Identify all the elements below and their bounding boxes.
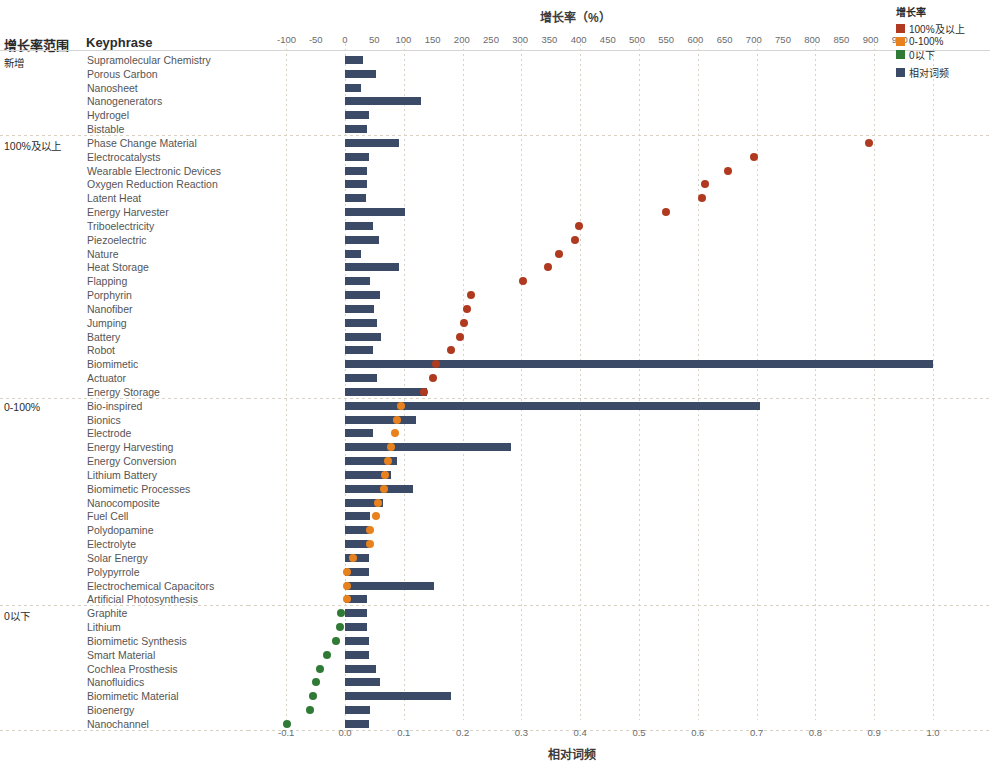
keyphrase-label: Lithium Battery — [87, 470, 157, 481]
growth-rate-dot — [555, 250, 563, 258]
keyphrase-label: Biomimetic Material — [87, 691, 179, 702]
keyphrase-label: Bionics — [87, 415, 121, 426]
bar — [345, 485, 413, 493]
keyphrase-label: Nature — [87, 249, 119, 260]
bottom-tick-label: 0.0 — [327, 727, 363, 738]
keyphrase-label: Graphite — [87, 608, 127, 619]
top-axis-title: 增长率（%） — [540, 8, 611, 25]
growth-rate-dot — [312, 678, 320, 686]
bar — [345, 346, 373, 354]
growth-rate-dot — [420, 388, 428, 396]
growth-rate-dot — [463, 305, 471, 313]
group-divider-label-column — [0, 135, 248, 136]
bar — [345, 167, 367, 175]
keyphrase-label: Energy Harvester — [87, 207, 169, 218]
bar — [345, 236, 379, 244]
growth-rate-dot — [724, 167, 732, 175]
bar — [345, 609, 367, 617]
keyphrase-label: Electrocatalysts — [87, 152, 161, 163]
keyphrase-label: Phase Change Material — [87, 138, 197, 149]
bar — [345, 706, 370, 714]
keyphrase-column-header: Keyphrase — [86, 35, 152, 50]
keyphrase-label: Bioenergy — [87, 705, 134, 716]
bottom-tick-label: 0.1 — [386, 727, 422, 738]
keyphrase-label: Bio-inspired — [87, 401, 142, 412]
keyphrase-label: Solar Energy — [87, 553, 148, 564]
keyphrase-label: Oxygen Reduction Reaction — [87, 179, 218, 190]
bar — [345, 208, 405, 216]
keyphrase-label: Battery — [87, 332, 120, 343]
keyphrase-label: Electrochemical Capacitors — [87, 581, 214, 592]
bar — [345, 374, 377, 382]
bar — [345, 623, 367, 631]
bar — [345, 402, 760, 410]
bottom-tick-label: 0.3 — [503, 727, 539, 738]
keyphrase-label: Nanochannel — [87, 719, 149, 730]
keyphrase-label: Latent Heat — [87, 193, 141, 204]
growth-rate-dot — [701, 180, 709, 188]
group-column-header: 增长率范围 — [4, 35, 69, 54]
keyphrase-label: Energy Storage — [87, 387, 160, 398]
keyphrase-label: Nanogenerators — [87, 96, 162, 107]
bottom-tick-label: 0.8 — [797, 727, 833, 738]
keyphrase-label: Electrode — [87, 428, 131, 439]
legend-title: 增长率 — [896, 4, 990, 19]
group-label-3: 0-100% — [4, 401, 40, 413]
keyphrase-label: Bistable — [87, 124, 124, 135]
group-divider — [248, 135, 990, 136]
bar — [345, 97, 421, 105]
growth-rate-dot — [343, 582, 351, 590]
keyphrase-label: Wearable Electronic Devices — [87, 166, 221, 177]
keyphrase-label: Porphyrin — [87, 290, 132, 301]
growth-rate-dot — [460, 319, 468, 327]
bottom-tick-label: 0.6 — [680, 727, 716, 738]
keyphrase-label: Triboelectricity — [87, 221, 154, 232]
bar — [345, 319, 377, 327]
growth-rate-dot — [306, 706, 314, 714]
growth-rate-dot — [387, 443, 395, 451]
growth-rate-dot — [447, 346, 455, 354]
bar — [345, 263, 399, 271]
growth-rate-dot — [393, 416, 401, 424]
growth-rate-dot — [323, 651, 331, 659]
gridline — [463, 44, 464, 720]
growth-rate-dot — [366, 540, 374, 548]
keyphrase-label: Cochlea Prosthesis — [87, 664, 177, 675]
legend-item-1[interactable]: 100%及以上 — [896, 22, 990, 35]
bar — [345, 250, 361, 258]
bar — [345, 222, 373, 230]
bar — [345, 637, 369, 645]
group-label-4: 0以下 — [4, 608, 30, 623]
keyphrase-label: Actuator — [87, 373, 126, 384]
bar — [345, 56, 363, 64]
growth-rate-dot — [698, 194, 706, 202]
group-label-1: 新增 — [4, 55, 24, 70]
keyphrase-label: Energy Conversion — [87, 456, 176, 467]
bar — [345, 305, 374, 313]
keyphrase-label: Energy Harvesting — [87, 442, 173, 453]
bar — [345, 333, 381, 341]
keyphrase-label: Polydopamine — [87, 525, 154, 536]
gridline — [874, 44, 875, 720]
growth-rate-dot — [374, 499, 382, 507]
keyphrase-label: Fuel Cell — [87, 511, 128, 522]
keyphrase-label: Biomimetic Processes — [87, 484, 190, 495]
growth-rate-dot — [571, 236, 579, 244]
gridline — [286, 44, 287, 720]
bottom-tick-label: -0.1 — [268, 727, 304, 738]
bar — [345, 125, 367, 133]
growth-rate-dot — [397, 402, 405, 410]
gridline — [521, 44, 522, 720]
bottom-axis-title: 相对词频 — [548, 745, 596, 762]
group-divider-label-column — [0, 605, 248, 606]
keyphrase-label: Smart Material — [87, 650, 155, 661]
group-divider — [248, 605, 990, 606]
growth-rate-dot — [380, 485, 388, 493]
keyphrase-label: Artificial Photosynthesis — [87, 594, 198, 605]
gridline — [639, 44, 640, 720]
keyphrase-label: Nanocomposite — [87, 498, 160, 509]
growth-rate-dot — [372, 512, 380, 520]
keyphrase-label: Jumping — [87, 318, 127, 329]
keyphrase-label: Hydrogel — [87, 110, 129, 121]
keyphrase-label: Robot — [87, 345, 115, 356]
